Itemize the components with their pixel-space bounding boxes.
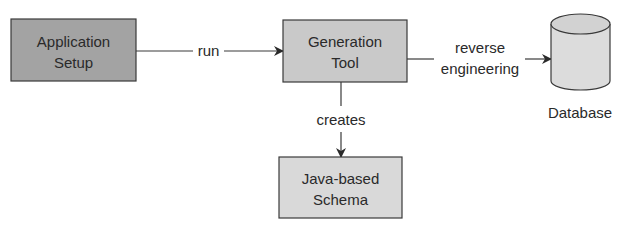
node-java-based-schema: Java-based Schema: [279, 157, 402, 218]
edge-creates: creates: [316, 82, 365, 157]
node-label-line1: Application: [37, 33, 110, 50]
node-label-line1: Generation: [308, 33, 382, 50]
node-label-line2: Setup: [54, 54, 93, 71]
edge-label-run: run: [198, 42, 220, 59]
node-database: Database: [548, 14, 612, 121]
node-label-line2: Tool: [331, 54, 359, 71]
diagram-canvas: Application Setup run Generation Tool re…: [0, 0, 626, 229]
edge-label-engineering: engineering: [441, 60, 519, 77]
node-application-setup: Application Setup: [11, 19, 136, 81]
node-label-line1: Java-based: [302, 170, 380, 187]
node-box: [283, 20, 407, 82]
edge-reverse-engineering: reverse engineering: [407, 39, 551, 77]
node-box: [279, 157, 402, 218]
node-label-line2: Schema: [313, 191, 369, 208]
database-label: Database: [548, 104, 612, 121]
edge-label-creates: creates: [316, 111, 365, 128]
edge-run: run: [136, 42, 283, 59]
edge-label-reverse: reverse: [455, 39, 505, 56]
node-generation-tool: Generation Tool: [283, 20, 407, 82]
node-box: [11, 19, 136, 81]
